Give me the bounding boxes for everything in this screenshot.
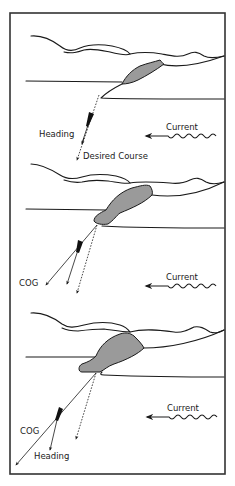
boat-icon [55,407,63,421]
shoreline-left [26,81,122,82]
coastline-ridge [130,52,224,58]
current-wave-icon [146,134,216,138]
headland-shaded [122,60,164,84]
desired-course-line [77,225,97,293]
panel-3: COG Heading Current [16,313,224,465]
coastline-far [31,313,130,332]
boat-icon [76,240,83,253]
panel-2: COG Current [19,164,224,293]
shoreline-lower [101,84,224,99]
current-label: Current [167,403,200,413]
current-wave-icon [147,415,217,419]
current-label: Current [166,122,199,132]
heading-label: Heading [39,129,74,139]
coastline-far [31,36,130,55]
current-diagram: Heading Desired Course Current COG Curre… [0,0,235,486]
shoreline-lower [101,372,224,377]
heading-line [67,250,78,284]
cog-label: COG [20,426,39,436]
headland-shaded [79,333,144,372]
cog-label: COG [19,278,38,288]
shoreline-lower [102,226,224,228]
desired-course-label: Desired Course [83,151,148,161]
coastline-ridge [130,327,224,333]
current-label: Current [166,272,199,282]
headland-shaded [94,185,152,224]
cog-line [46,225,97,285]
desired-course-line [76,373,96,439]
panel-1: Heading Desired Course Current [26,36,224,161]
coastline-ridge [130,178,224,184]
current-wave-icon [146,284,216,288]
boat-icon [86,112,94,127]
shoreline-left [26,209,106,210]
coastline-far [31,164,130,183]
heading-label: Heading [34,451,69,461]
